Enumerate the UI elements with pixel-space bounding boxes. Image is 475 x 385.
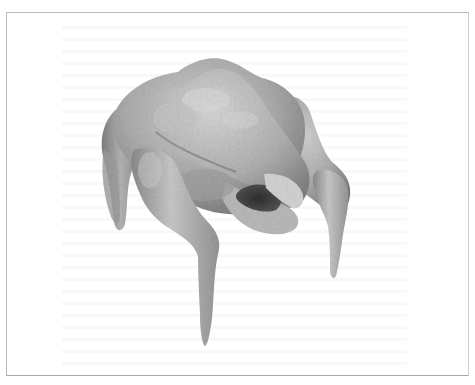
right-forearm-claw [313,170,349,278]
creature-model [0,0,475,385]
knee-highlight [138,152,162,188]
brow-ridge [153,102,197,134]
head-highlight [222,111,258,129]
